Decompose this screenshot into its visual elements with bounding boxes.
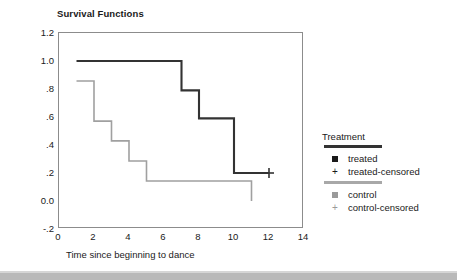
y-tick-label: .2 — [46, 167, 54, 178]
survival-curves — [59, 33, 304, 229]
legend-item-control[interactable]: control — [322, 188, 452, 201]
legend-label-control: control — [348, 188, 377, 201]
treated-censored-marker — [264, 168, 274, 178]
square-icon — [322, 152, 348, 165]
y-tick-label: .8 — [46, 83, 54, 94]
x-axis-title: Time since beginning to dance — [66, 249, 195, 260]
x-tick-label: 10 — [228, 231, 239, 242]
legend-item-treated-censored[interactable]: + treated-censored — [322, 165, 452, 178]
bottom-divider — [0, 273, 457, 280]
legend-label-treated: treated — [348, 152, 378, 165]
y-tick-label: .4 — [46, 139, 54, 150]
y-tick-label: .6 — [46, 111, 54, 122]
legend-rule-treated — [324, 145, 382, 148]
survival-chart-figure: Survival Functions 1.2 1.0 .8 .6 .4 .2 0… — [0, 0, 457, 280]
legend-item-control-censored[interactable]: + control-censored — [322, 201, 452, 214]
square-icon — [322, 188, 348, 201]
plus-icon: + — [322, 201, 348, 214]
legend-title: Treatment — [322, 131, 452, 142]
x-tick-label: 8 — [195, 231, 200, 242]
x-tick-label: 6 — [160, 231, 165, 242]
x-tick-label: 12 — [263, 231, 274, 242]
x-tick-label: 4 — [125, 231, 130, 242]
legend: Treatment treated + treated-censored con… — [322, 131, 452, 216]
legend-label-control-censored: control-censored — [348, 201, 419, 214]
plus-icon: + — [322, 165, 348, 178]
chart-title: Survival Functions — [57, 8, 144, 19]
y-tick-label: -.2 — [43, 223, 54, 234]
x-tick-label: 14 — [298, 231, 309, 242]
x-tick-label: 0 — [55, 231, 60, 242]
y-tick-label: 1.0 — [41, 55, 54, 66]
y-axis-tick-labels: 1.2 1.0 .8 .6 .4 .2 0.0 -.2 — [14, 0, 54, 280]
legend-group-control: control + control-censored — [322, 181, 452, 214]
treated-curve — [77, 61, 270, 173]
legend-item-treated[interactable]: treated — [322, 152, 452, 165]
legend-label-treated-censored: treated-censored — [348, 165, 420, 178]
y-tick-label: 0.0 — [41, 195, 54, 206]
control-curve — [77, 81, 252, 201]
legend-rule-control — [324, 181, 382, 184]
legend-group-treated: treated + treated-censored — [322, 145, 452, 178]
x-tick-label: 2 — [90, 231, 95, 242]
plot-area — [58, 32, 303, 228]
y-tick-label: 1.2 — [41, 27, 54, 38]
